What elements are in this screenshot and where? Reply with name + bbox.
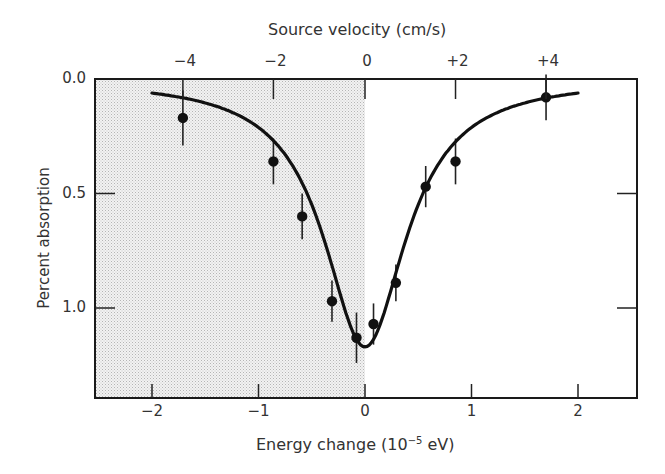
top-axis-title: Source velocity (cm/s) xyxy=(268,20,446,39)
top-tick-label: −2 xyxy=(264,52,286,70)
x-tick-label: 1 xyxy=(467,402,477,420)
data-point xyxy=(450,156,460,166)
x-tick-label: −2 xyxy=(141,402,163,420)
data-point xyxy=(421,181,431,191)
top-tick-label: −4 xyxy=(174,52,196,70)
x-axis-title-suffix: eV) xyxy=(422,435,454,454)
data-point xyxy=(178,113,188,123)
top-tick-label: +2 xyxy=(446,52,468,70)
y-axis-title: Percent absorption xyxy=(35,167,53,308)
chart-canvas xyxy=(0,0,665,474)
y-tick-label: 0.0 xyxy=(36,69,86,87)
x-tick-label: −1 xyxy=(247,402,269,420)
top-tick-label: 0 xyxy=(362,52,372,70)
data-point xyxy=(351,333,361,343)
x-axis-title-prefix: Energy change (10 xyxy=(256,435,408,454)
data-point xyxy=(368,319,378,329)
data-point xyxy=(297,211,307,221)
x-axis-title-exponent: −5 xyxy=(408,435,423,446)
data-point xyxy=(391,278,401,288)
data-point xyxy=(327,296,337,306)
x-tick-label: 2 xyxy=(573,402,583,420)
data-point xyxy=(268,156,278,166)
x-axis-title: Energy change (10−5 eV) xyxy=(256,435,455,454)
top-tick-label: +4 xyxy=(537,52,559,70)
x-tick-label: 0 xyxy=(360,402,370,420)
